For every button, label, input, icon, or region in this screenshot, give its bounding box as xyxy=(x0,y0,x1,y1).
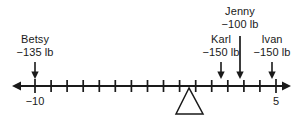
axis-line-group xyxy=(12,82,291,91)
axis-label--10: −10 xyxy=(21,95,49,107)
jenny-weight: −100 lb xyxy=(209,18,271,31)
marker-label-jenny: Jenny −100 lb xyxy=(209,5,271,31)
ivan-arrow xyxy=(268,62,275,79)
betsy-weight: −135 lb xyxy=(4,46,66,59)
marker-label-betsy: Betsy −135 lb xyxy=(4,33,66,59)
number-line-figure: Betsy −135 lb Jenny −100 lb Karl −150 lb… xyxy=(0,0,301,122)
marker-label-ivan: Ivan −150 lb xyxy=(241,33,301,59)
axis-left-arrowhead xyxy=(12,82,21,91)
karl-arrow xyxy=(217,62,224,79)
axis-right-arrowhead xyxy=(282,82,291,91)
betsy-name: Betsy xyxy=(4,33,66,46)
axis-label-5: 5 xyxy=(266,95,286,107)
jenny-name: Jenny xyxy=(209,5,271,18)
ivan-weight: −150 lb xyxy=(241,46,301,59)
ivan-name: Ivan xyxy=(241,33,301,46)
betsy-arrow xyxy=(31,62,38,79)
